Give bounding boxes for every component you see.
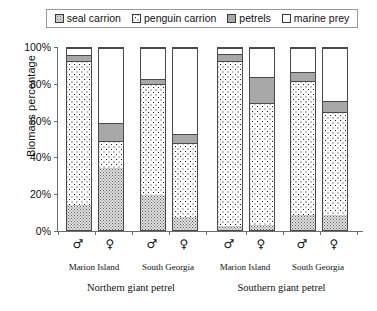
legend-item: seal carrion — [55, 13, 121, 24]
plot-area: 0%20%40%60%80%100% — [57, 47, 363, 232]
stacked-bar — [290, 47, 316, 231]
bar-segment-petrels — [173, 134, 197, 143]
legend-item: petrels — [227, 13, 271, 24]
stacked-bar — [249, 47, 275, 231]
legend-item: marine prey — [282, 13, 349, 24]
bar-segment-penguin — [173, 143, 197, 218]
y-axis-tick-label: 80% — [30, 79, 51, 90]
bar-segment-penguin — [99, 141, 123, 168]
x-axis-tick-mark — [246, 231, 247, 235]
x-axis-tick-mark — [132, 231, 133, 235]
bar-segment-penguin — [323, 112, 347, 216]
bar-segment-seal — [218, 226, 242, 230]
legend-item: penguin carrion — [132, 13, 216, 24]
bar-segment-seal — [67, 205, 91, 230]
x-axis-sex-symbol: ♂ — [65, 238, 91, 250]
bar-segment-penguin — [218, 61, 242, 227]
bar-segment-seal — [250, 225, 274, 230]
bar-segment-seal — [173, 217, 197, 230]
bar-segment-marine — [250, 48, 274, 77]
x-axis-sex-symbol: ♂ — [216, 238, 242, 250]
legend-swatch-marine-prey — [282, 14, 291, 23]
legend-swatch-penguin-carrion — [132, 14, 141, 23]
y-axis-tick-label: 20% — [30, 189, 51, 200]
x-axis-sex-symbol: ♀ — [248, 238, 274, 250]
legend-swatch-petrels — [227, 14, 236, 23]
x-axis-sex-symbol: ♀ — [97, 238, 123, 250]
legend-label: penguin carrion — [144, 13, 216, 24]
bar-segment-penguin — [67, 61, 91, 205]
stacked-bar — [172, 47, 198, 231]
bar-series-container — [58, 47, 363, 231]
bar-segment-marine — [67, 48, 91, 55]
x-axis-tick-mark — [283, 231, 284, 235]
x-axis-tick-mark — [357, 231, 358, 235]
bar-segment-seal — [291, 215, 315, 230]
x-axis-sex-symbol: ♀ — [321, 238, 347, 250]
x-axis-sex-symbol: ♀ — [171, 238, 197, 250]
bar-segment-penguin — [250, 103, 274, 225]
y-axis-tick-label: 40% — [30, 152, 51, 163]
y-axis-tick-label: 100% — [24, 42, 51, 53]
bar-segment-marine — [141, 48, 165, 79]
bar-segment-seal — [141, 195, 165, 230]
bar-segment-petrels — [99, 123, 123, 141]
bar-segment-seal — [323, 215, 347, 230]
bar-segment-seal — [99, 168, 123, 230]
bar-segment-marine — [173, 48, 197, 134]
x-axis-sex-symbol: ♂ — [289, 238, 315, 250]
x-axis-species-label: Northern giant petrel — [61, 283, 201, 294]
legend-label: marine prey — [294, 13, 349, 24]
stacked-bar — [98, 47, 124, 231]
bar-segment-penguin — [141, 84, 165, 195]
bar-segment-penguin — [291, 81, 315, 216]
stacked-bar — [140, 47, 166, 231]
legend-label: petrels — [239, 13, 271, 24]
x-axis-sex-symbol: ♂ — [139, 238, 165, 250]
y-axis-tick-label: 60% — [30, 116, 51, 127]
legend-label: seal carrion — [67, 13, 121, 24]
chart-legend: seal carrionpenguin carrionpetrelsmarine… — [46, 9, 358, 28]
x-axis-tick-mark — [320, 231, 321, 235]
bar-segment-petrels — [323, 101, 347, 112]
stacked-bar — [66, 47, 92, 231]
bar-segment-marine — [291, 48, 315, 72]
x-axis-tick-mark — [169, 231, 170, 235]
x-axis-site-label: South Georgia — [273, 263, 363, 272]
bar-segment-petrels — [218, 54, 242, 61]
bar-segment-marine — [99, 48, 123, 123]
stacked-bar — [217, 47, 243, 231]
legend-swatch-seal-carrion — [55, 14, 64, 23]
x-axis-species-label: Southern giant petrel — [212, 283, 352, 294]
bar-segment-marine — [323, 48, 347, 101]
y-axis-tick-label: 0% — [36, 226, 51, 237]
bar-segment-petrels — [291, 72, 315, 81]
stacked-bar — [322, 47, 348, 231]
x-axis-tick-mark — [206, 231, 207, 235]
x-axis-tick-mark — [95, 231, 96, 235]
bar-segment-petrels — [250, 77, 274, 102]
x-axis-tick-mark — [58, 231, 59, 235]
